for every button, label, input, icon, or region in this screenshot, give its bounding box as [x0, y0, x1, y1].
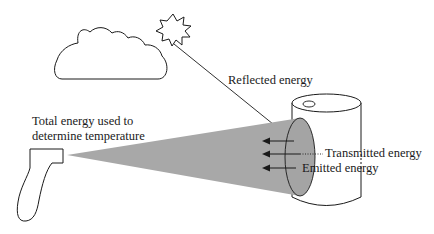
emitted-energy-label: Emitted energy: [302, 161, 378, 176]
transmitted-energy-label: Transmitted energy: [325, 146, 422, 161]
total-energy-label-line2: determine temperature: [32, 129, 145, 144]
total-energy-label-line1: Total energy used to: [32, 114, 145, 129]
infrared-thermometer-icon: [17, 149, 63, 221]
total-energy-label: Total energy used to determine temperatu…: [32, 114, 145, 144]
cylinder-cap-oval: [303, 101, 315, 107]
reflected-energy-label: Reflected energy: [228, 73, 313, 88]
cloud-icon: [55, 28, 167, 79]
sun-icon: [156, 14, 191, 46]
target-spot: [285, 118, 315, 196]
